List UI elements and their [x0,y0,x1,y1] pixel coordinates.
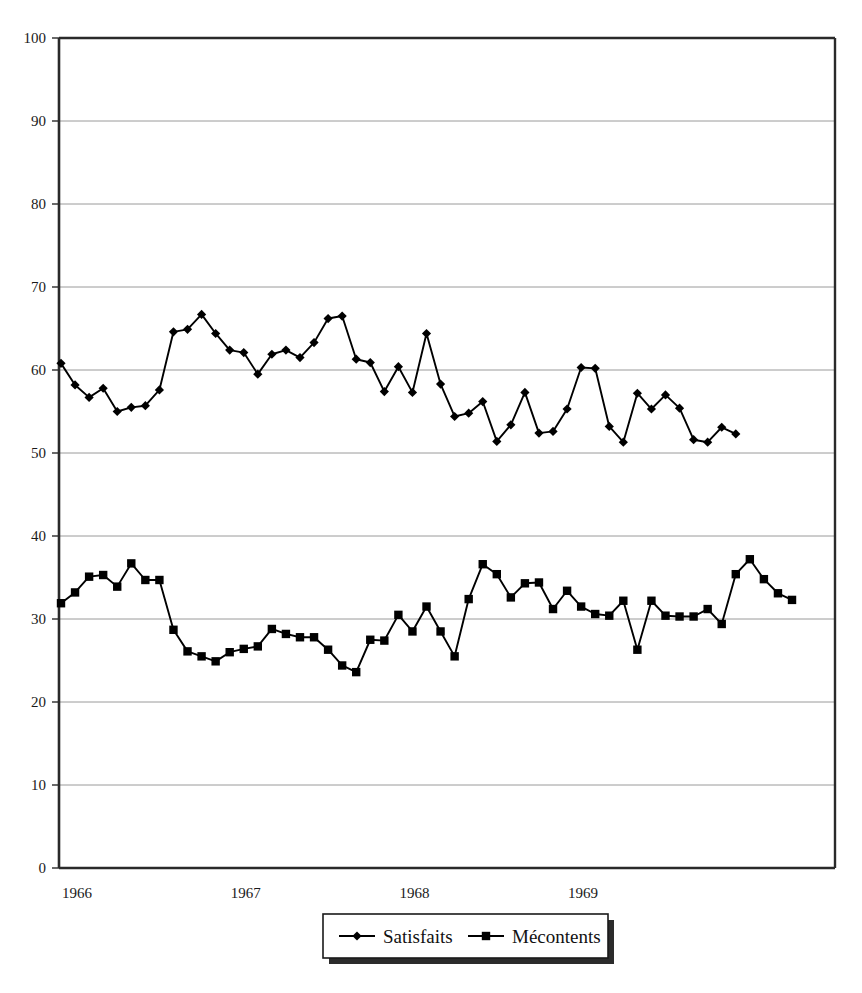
data-point-square [732,570,740,578]
data-point-square [549,605,557,613]
data-point-square [99,571,107,579]
data-point-square [619,597,627,605]
data-point-square [493,570,501,578]
y-tick-label: 0 [39,860,47,876]
data-point-square [689,612,697,620]
data-point-square [774,589,782,597]
data-point-square [240,645,248,653]
data-point-square [324,646,332,654]
data-point-square [479,560,487,568]
data-point-square [127,559,135,567]
y-tick-label: 50 [31,445,46,461]
data-point-square [268,625,276,633]
y-tick-label: 80 [31,196,46,212]
data-point-square [338,661,346,669]
data-point-square [183,647,191,655]
legend-label: Mécontents [512,926,601,947]
data-point-square [422,602,430,610]
data-point-square [57,599,65,607]
data-point-square [310,633,318,641]
legend-label: Satisfaits [383,926,453,947]
x-tick-label: 1968 [399,885,429,901]
y-tick-label: 100 [24,30,47,46]
y-tick-label: 60 [31,362,46,378]
data-point-square [507,593,515,601]
data-point-square [521,579,529,587]
data-point-square [380,636,388,644]
y-tick-label: 30 [31,611,46,627]
data-point-square [746,555,754,563]
y-tick-label: 40 [31,528,46,544]
data-point-square [647,597,655,605]
y-tick-label: 90 [31,113,46,129]
data-point-square [296,633,304,641]
data-point-square [482,932,490,940]
y-tick-label: 20 [31,694,46,710]
data-point-square [464,595,472,603]
data-point-square [211,657,219,665]
data-point-square [535,578,543,586]
data-point-square [408,627,416,635]
data-point-square [225,648,233,656]
data-point-square [675,612,683,620]
data-point-square [169,626,177,634]
data-point-square [141,576,149,584]
data-point-square [605,611,613,619]
data-point-square [450,652,458,660]
data-point-square [436,627,444,635]
data-point-square [85,572,93,580]
line-chart-figure: 0102030405060708090100 1966196719681969 … [0,0,862,993]
data-point-square [718,620,726,628]
x-tick-label: 1967 [231,885,262,901]
y-tick-label: 10 [31,777,46,793]
data-point-square [113,582,121,590]
data-point-square [760,575,768,583]
chart-legend: SatisfaitsMécontents [323,914,614,964]
data-point-square [155,576,163,584]
data-point-square [661,611,669,619]
data-point-square [197,652,205,660]
data-point-square [563,587,571,595]
data-point-square [788,596,796,604]
data-point-square [352,668,360,676]
data-point-square [282,630,290,638]
x-tick-label: 1966 [62,885,93,901]
data-point-square [633,646,641,654]
data-point-square [366,636,374,644]
y-tick-label: 70 [31,279,46,295]
data-point-square [254,642,262,650]
x-tick-label: 1969 [568,885,598,901]
data-point-square [394,611,402,619]
chart-canvas: 0102030405060708090100 1966196719681969 … [0,0,862,993]
data-point-square [577,602,585,610]
data-point-square [703,605,711,613]
chart-background [0,0,862,993]
data-point-square [591,610,599,618]
data-point-square [71,588,79,596]
